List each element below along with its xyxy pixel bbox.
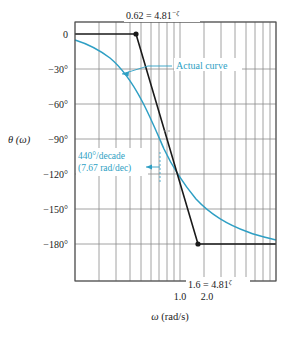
slope-callout-line2: (7.67 rad/dec) xyxy=(78,163,131,174)
annotation-upper-corner: 1.6 = 4.81ζ xyxy=(186,277,250,291)
annotation-upper-corner-text: 1.6 = 4.81ζ xyxy=(188,278,233,290)
y-axis-tick-labels: 0 −30° −60° −90° −120° −150° −180° xyxy=(43,29,68,250)
y-tick-m150: −150° xyxy=(43,204,68,215)
y-tick-m30: −30° xyxy=(48,64,68,75)
actual-curve-label: Actual curve xyxy=(176,60,228,71)
y-tick-m60: −60° xyxy=(48,99,68,110)
y-tick-m120: −120° xyxy=(43,169,68,180)
x-axis-title-units: (rad/s) xyxy=(159,311,190,323)
bode-phase-chart: 0 −30° −60° −90° −120° −150° −180° θ (ω)… xyxy=(0,0,285,337)
y-axis-title: θ (ω) xyxy=(8,134,31,146)
y-tick-m90: −90° xyxy=(48,134,68,145)
marker-upper-corner xyxy=(195,241,200,246)
slope-callout-line1: 440°/decade xyxy=(78,151,125,161)
x-axis-title: ω (rad/s) xyxy=(151,311,189,323)
slope-callout-line1-text: 440°/decade xyxy=(78,151,125,161)
x-axis-tick-labels: 1.0 2.0 xyxy=(174,291,214,302)
y-tick-m180: −180° xyxy=(43,239,68,250)
marker-lower-corner xyxy=(133,31,138,36)
x-tick-1: 1.0 xyxy=(174,291,187,302)
annotation-upper-corner-base: 1.6 = 4.81 xyxy=(188,279,229,290)
y-tick-0: 0 xyxy=(63,29,68,40)
annotation-lower-corner-base: 0.62 = 4.81 xyxy=(126,10,172,21)
x-tick-2: 2.0 xyxy=(201,291,214,302)
annotation-lower-corner: 0.62 = 4.81−ζ xyxy=(124,8,200,22)
annotation-lower-corner-exponent: −ζ xyxy=(172,9,181,17)
x-axis-title-omega: ω xyxy=(151,311,158,322)
